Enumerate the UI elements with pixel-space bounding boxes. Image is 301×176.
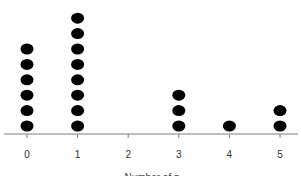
data-dot (21, 74, 34, 85)
x-tick-label: 5 (277, 149, 283, 160)
data-dot (21, 121, 34, 132)
x-tick-label: 4 (227, 149, 233, 160)
x-tick-label: 0 (24, 149, 30, 160)
x-tick-label: 3 (176, 149, 182, 160)
dot-series (21, 13, 287, 132)
data-dot (223, 121, 236, 132)
data-dot (172, 105, 185, 116)
data-dot (172, 90, 185, 101)
data-dot (71, 44, 84, 55)
data-dot (274, 105, 287, 116)
x-axis-label: Number of p (124, 172, 179, 176)
data-dot (71, 105, 84, 116)
data-dot (274, 121, 287, 132)
data-dot (71, 90, 84, 101)
data-dot (21, 44, 34, 55)
x-tick-label: 2 (125, 149, 131, 160)
data-dot (71, 74, 84, 85)
dot-plot: 012345 Number of p (0, 0, 301, 176)
data-dot (21, 105, 34, 116)
data-dot (71, 59, 84, 70)
data-dot (21, 90, 34, 101)
data-dot (71, 28, 84, 39)
data-dot (172, 121, 185, 132)
data-dot (71, 13, 84, 24)
data-dot (71, 121, 84, 132)
x-tick-label: 1 (75, 149, 81, 160)
data-dot (21, 59, 34, 70)
x-axis-ticks: 012345 (24, 134, 283, 160)
